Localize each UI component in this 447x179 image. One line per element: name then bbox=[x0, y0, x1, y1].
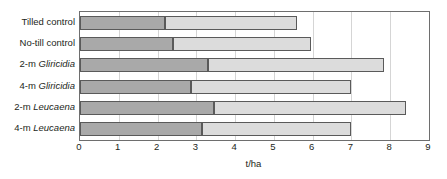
x-tick-label: 0 bbox=[76, 141, 81, 152]
x-tick-label: 2 bbox=[154, 141, 159, 152]
bar-row bbox=[80, 122, 429, 136]
bar-row bbox=[80, 101, 429, 115]
category-label: 4-m Gliricidia bbox=[0, 81, 75, 91]
category-label: 4-m Leucaena bbox=[0, 123, 75, 133]
x-tick-label: 8 bbox=[387, 141, 392, 152]
category-axis: Tilled controlNo-till control2-m Glirici… bbox=[0, 11, 75, 139]
bar-row bbox=[80, 80, 429, 94]
x-tick-label: 6 bbox=[309, 141, 314, 152]
bar-segment-first bbox=[80, 16, 165, 30]
bar-segment-first bbox=[80, 58, 208, 72]
category-label: 2-m Gliricidia bbox=[0, 59, 75, 69]
bar-segment-first bbox=[80, 37, 173, 51]
x-axis: 0123456789 bbox=[79, 140, 428, 156]
x-tick-label: 7 bbox=[348, 141, 353, 152]
bar-row bbox=[80, 37, 429, 51]
category-label: Tilled control bbox=[0, 17, 75, 27]
bar-segment-second bbox=[173, 37, 311, 51]
x-axis-title: t/ha bbox=[79, 158, 428, 169]
x-tick-label: 3 bbox=[193, 141, 198, 152]
bar-segment-second bbox=[208, 58, 384, 72]
bar-segment-first bbox=[80, 80, 191, 94]
bar-segment-second bbox=[214, 101, 406, 115]
x-tick-label: 4 bbox=[231, 141, 236, 152]
bar-segment-second bbox=[191, 80, 352, 94]
category-label: No-till control bbox=[0, 38, 75, 48]
x-tick-label: 5 bbox=[270, 141, 275, 152]
plot-area bbox=[79, 11, 430, 141]
bar-segment-second bbox=[202, 122, 351, 136]
bars-layer bbox=[80, 12, 429, 140]
bar-segment-first bbox=[80, 101, 214, 115]
x-tick-label: 9 bbox=[425, 141, 430, 152]
bar-row bbox=[80, 58, 429, 72]
bar-segment-second bbox=[165, 16, 297, 30]
bar-segment-first bbox=[80, 122, 202, 136]
stacked-bar-chart: Tilled controlNo-till control2-m Glirici… bbox=[0, 0, 447, 179]
bar-row bbox=[80, 16, 429, 30]
category-label: 2-m Leucaena bbox=[0, 102, 75, 112]
x-tick-label: 1 bbox=[115, 141, 120, 152]
